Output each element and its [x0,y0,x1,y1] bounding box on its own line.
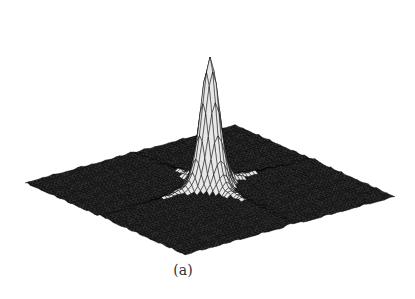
surface-mesh [25,57,395,255]
figure-caption: (a) [168,262,198,278]
surface-plot [0,0,415,299]
